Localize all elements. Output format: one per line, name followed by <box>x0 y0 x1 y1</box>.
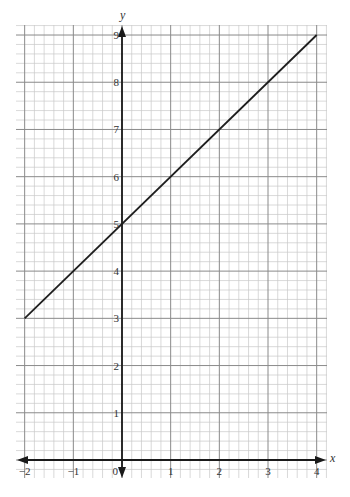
major-grid <box>16 25 327 478</box>
y-tick-label: 6 <box>114 171 120 183</box>
minor-grid <box>16 25 327 478</box>
y-tick-label: 9 <box>114 29 120 41</box>
y-tick-label: 7 <box>114 123 120 135</box>
tick-labels: −2−101234123456789 <box>19 29 320 477</box>
x-tick-label: −2 <box>19 465 31 477</box>
y-tick-label: 2 <box>114 360 120 372</box>
x-axis-arrow-right-icon <box>315 456 326 464</box>
x-axis-arrow-left-icon <box>17 456 28 464</box>
y-axis-arrow-up-icon <box>118 26 126 37</box>
x-tick-label: 4 <box>314 465 320 477</box>
y-axis-arrow-down-icon <box>118 467 126 478</box>
x-tick-label: −1 <box>67 465 79 477</box>
x-tick-label: 1 <box>168 465 174 477</box>
line-chart: −2−101234123456789 x y <box>0 0 350 497</box>
y-tick-label: 3 <box>114 312 120 324</box>
y-tick-label: 5 <box>114 218 120 230</box>
x-tick-label: 2 <box>217 465 223 477</box>
x-tick-label: 3 <box>265 465 271 477</box>
y-tick-label: 1 <box>114 407 120 419</box>
y-tick-label: 4 <box>114 265 120 277</box>
y-tick-label: 8 <box>114 76 120 88</box>
x-axis-label: x <box>329 451 336 465</box>
y-axis-label: y <box>119 8 126 22</box>
x-tick-label: 0 <box>113 465 119 477</box>
